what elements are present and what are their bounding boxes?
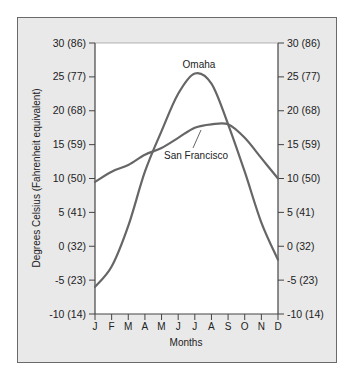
y-tick-label-right: -10 (14) — [287, 308, 324, 320]
y-axis-title: Degrees Celsius (Fahrenheit equivalent) — [31, 89, 42, 268]
x-axis-title: Months — [170, 337, 203, 348]
line-chart: 30 (86)30 (86)25 (77)25 (77)20 (68)20 (6… — [0, 0, 352, 380]
y-tick-label-left: -5 (23) — [55, 274, 86, 286]
y-tick-label-right: -5 (23) — [287, 274, 318, 286]
x-tick-label: F — [109, 321, 115, 332]
y-tick-label-left: 0 (32) — [59, 240, 86, 252]
x-tick-label: O — [241, 321, 249, 332]
x-tick-label: A — [142, 321, 149, 332]
x-tick-label: M — [157, 321, 165, 332]
san-francisco-series-label: San Francisco — [164, 150, 228, 161]
x-tick-label: J — [192, 321, 197, 332]
x-tick-label: D — [274, 321, 281, 332]
x-tick-label: M — [124, 321, 132, 332]
y-tick-label-left: 5 (41) — [59, 206, 86, 218]
y-tick-label-right: 5 (41) — [287, 206, 314, 218]
y-tick-label-left: -10 (14) — [49, 308, 86, 320]
y-tick-label-left: 20 (68) — [53, 104, 86, 116]
y-tick-label-left: 30 (86) — [53, 37, 86, 49]
y-tick-label-right: 10 (50) — [287, 172, 320, 184]
y-tick-label-left: 25 (77) — [53, 70, 86, 82]
x-tick-label: A — [208, 321, 215, 332]
x-tick-label: N — [258, 321, 265, 332]
y-tick-label-right: 20 (68) — [287, 104, 320, 116]
omaha-series-label: Omaha — [183, 59, 216, 70]
y-tick-label-right: 30 (86) — [287, 37, 320, 49]
x-tick-label: S — [225, 321, 232, 332]
y-tick-label-right: 0 (32) — [287, 240, 314, 252]
y-tick-label-right: 25 (77) — [287, 70, 320, 82]
plot-area — [95, 43, 278, 314]
y-tick-label-left: 15 (59) — [53, 138, 86, 150]
x-tick-label: J — [176, 321, 181, 332]
y-tick-label-left: 10 (50) — [53, 172, 86, 184]
y-tick-label-right: 15 (59) — [287, 138, 320, 150]
x-tick-label: J — [93, 321, 98, 332]
